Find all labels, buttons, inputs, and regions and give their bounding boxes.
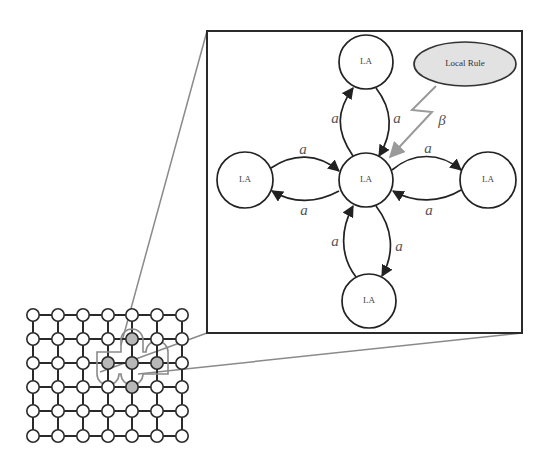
grid-cell [102,405,114,417]
grid-cell [176,381,188,393]
grid-cell [126,430,138,442]
grid-cell-highlighted [126,357,138,369]
zoom-connector-line [138,333,522,374]
la-node-label: LA [360,174,372,184]
beta-label: β [437,112,446,128]
la-node-label: LA [363,295,375,305]
la-node-label: LA [482,174,494,184]
grid-cell [52,405,64,417]
zoom-connector-line [121,31,207,345]
edge-label-a: a [395,238,403,254]
grid-cell [27,309,39,321]
grid-cell [102,381,114,393]
grid-cell [176,333,188,345]
la-node-bottom: LA [342,274,396,328]
grid-cell [77,333,89,345]
grid-cell [27,430,39,442]
la-node-left: LA [217,152,273,208]
grid-cell [77,405,89,417]
grid-cell [52,309,64,321]
grid-cell-highlighted [126,333,138,345]
grid-cell [151,381,163,393]
grid-cell [77,430,89,442]
grid-cell [102,309,114,321]
grid-cell [176,430,188,442]
la-node-label: LA [239,174,251,184]
edge-label-a: a [331,233,339,249]
edge-label-a: a [331,110,339,126]
grid-cell [27,405,39,417]
grid-cell-highlighted [151,357,163,369]
grid-cell [77,309,89,321]
grid-cell [176,309,188,321]
grid-cell [126,309,138,321]
edge-label-a: a [393,110,401,126]
grid-cell [52,357,64,369]
grid-cell-highlighted [102,357,114,369]
grid-cell [52,381,64,393]
grid-cell [27,381,39,393]
grid-cell [126,405,138,417]
grid-cell [27,333,39,345]
grid-cell [151,405,163,417]
la-node-label: LA [360,56,372,66]
edge-label-a: a [300,202,308,218]
local-rule: Local Rule [414,42,516,86]
edge-label-a: a [299,141,307,157]
grid-cell [151,309,163,321]
diagram-canvas: Local Rule LALALALALA aaaaaaaa β [0,0,549,462]
grid-cell-highlighted [126,381,138,393]
grid-cell [102,430,114,442]
diagram-svg: Local Rule LALALALALA aaaaaaaa β [0,0,549,462]
grid-cell [176,405,188,417]
grid-cell [151,430,163,442]
grid-cell [151,333,163,345]
grid-cell [102,333,114,345]
la-node-top: LA [339,35,393,89]
la-node-center: LA [339,153,393,207]
edge-label-a: a [424,140,432,156]
grid-cell [77,381,89,393]
grid-cell [176,357,188,369]
grid-cell [52,333,64,345]
la-node-right: LA [460,152,516,208]
grid-cell [77,357,89,369]
edge-label-a: a [425,202,433,218]
local-rule-label: Local Rule [445,58,485,68]
grid-cell [52,430,64,442]
grid-cell [27,357,39,369]
